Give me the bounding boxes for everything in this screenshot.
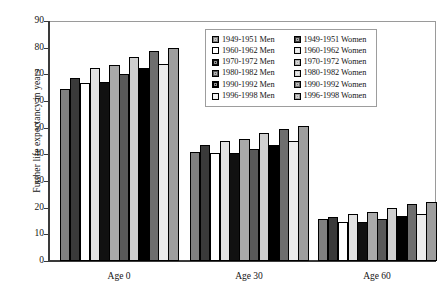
legend-item-1990-1992-women[interactable]: 1990-1992 Women	[294, 79, 371, 90]
y-tick-label-60: 60	[0, 96, 44, 106]
bar-1996-1998-women-age-60	[426, 202, 436, 261]
legend-swatch-icon	[294, 47, 301, 54]
legend-item-label: 1960-1962 Women	[304, 47, 367, 55]
legend-item-1949-1951-men[interactable]: 1949-1951 Men	[212, 34, 288, 45]
y-tick-label-0: 0	[0, 256, 44, 266]
legend-item-1949-1951-women[interactable]: 1949-1951 Women	[294, 34, 371, 45]
legend-swatch-icon	[294, 93, 301, 100]
legend-swatch-icon	[294, 70, 301, 77]
y-tick-label-20: 20	[0, 203, 44, 213]
legend-swatch-icon	[212, 81, 219, 88]
legend-item-label: 1949-1951 Men	[222, 36, 275, 44]
bar-1970-1972-women-age-60	[367, 212, 377, 261]
chart-container: Further life expectancy in years 9080706…	[0, 0, 443, 303]
legend-item-label: 1996-1998 Men	[222, 92, 275, 100]
x-tick-label-age-0: Age 0	[60, 271, 178, 281]
legend-item-label: 1970-1972 Women	[304, 58, 367, 66]
legend-column-men: 1949-1951 Men1960-1962 Men1970-1972 Men1…	[212, 34, 288, 102]
legend-swatch-icon	[212, 70, 219, 77]
y-tick-label-10: 10	[0, 229, 44, 239]
chart-legend: 1949-1951 Men1960-1962 Men1970-1972 Men1…	[205, 29, 377, 107]
legend-item-1980-1982-women[interactable]: 1980-1982 Women	[294, 68, 371, 79]
bar-1990-1992-men-age-0	[139, 68, 149, 261]
y-tick-label-90: 90	[0, 16, 44, 26]
legend-item-1970-1972-men[interactable]: 1970-1972 Men	[212, 57, 288, 68]
legend-item-label: 1980-1982 Men	[222, 69, 275, 77]
legend-swatch-icon	[212, 93, 219, 100]
bar-1960-1962-men-age-0	[80, 83, 90, 261]
y-tick-label-50: 50	[0, 123, 44, 133]
legend-item-label: 1996-1998 Women	[304, 92, 367, 100]
bar-1996-1998-women-age-30	[298, 126, 308, 261]
legend-item-1960-1962-women[interactable]: 1960-1962 Women	[294, 45, 371, 56]
bar-1970-1972-women-age-30	[239, 139, 249, 261]
legend-item-label: 1949-1951 Women	[304, 36, 367, 44]
bar-1970-1972-women-age-0	[109, 65, 119, 261]
legend-item-label: 1970-1972 Men	[222, 58, 275, 66]
legend-item-1996-1998-women[interactable]: 1996-1998 Women	[294, 90, 371, 101]
legend-item-label: 1990-1992 Women	[304, 81, 367, 89]
legend-item-label: 1990-1992 Men	[222, 81, 275, 89]
bar-1990-1992-men-age-30	[269, 145, 279, 261]
legend-item-1996-1998-men[interactable]: 1996-1998 Men	[212, 90, 288, 101]
bar-1960-1962-men-age-60	[338, 222, 348, 261]
y-tick-label-30: 30	[0, 176, 44, 186]
x-tick-label-age-60: Age 60	[318, 271, 436, 281]
y-tick-label-80: 80	[0, 43, 44, 53]
bar-1990-1992-men-age-60	[397, 216, 407, 261]
legend-column-women: 1949-1951 Women1960-1962 Women1970-1972 …	[294, 34, 371, 102]
bar-1960-1962-men-age-30	[210, 153, 220, 261]
legend-item-1980-1982-men[interactable]: 1980-1982 Men	[212, 68, 288, 79]
bar-1996-1998-women-age-0	[168, 48, 178, 261]
bar-group-age-0	[60, 21, 178, 261]
legend-item-1960-1962-men[interactable]: 1960-1962 Men	[212, 45, 288, 56]
legend-item-1990-1992-men[interactable]: 1990-1992 Men	[212, 79, 288, 90]
y-tick-label-40: 40	[0, 149, 44, 159]
legend-item-label: 1980-1982 Women	[304, 69, 367, 77]
legend-item-1970-1972-women[interactable]: 1970-1972 Women	[294, 57, 371, 68]
legend-swatch-icon	[294, 59, 301, 66]
legend-swatch-icon	[212, 36, 219, 43]
legend-swatch-icon	[212, 59, 219, 66]
legend-swatch-icon	[294, 81, 301, 88]
y-tick-label-70: 70	[0, 69, 44, 79]
legend-swatch-icon	[294, 36, 301, 43]
legend-swatch-icon	[212, 47, 219, 54]
x-tick-label-age-30: Age 30	[190, 271, 308, 281]
legend-item-label: 1960-1962 Men	[222, 47, 275, 55]
